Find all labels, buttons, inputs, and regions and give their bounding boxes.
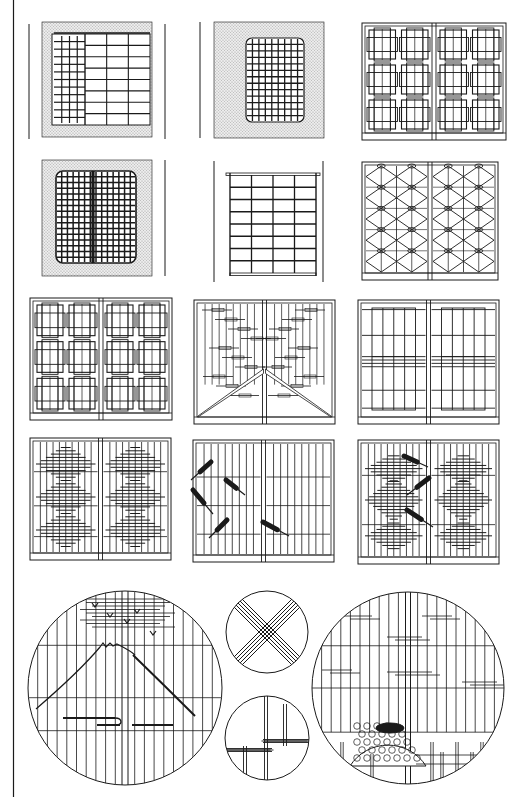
window-sliding-lattice-stippled-wall xyxy=(29,22,165,139)
shoji-interlocking-squares-tall xyxy=(30,298,172,420)
round-window-basket-fence xyxy=(312,592,505,784)
round-window-mount-fuji-lattice xyxy=(28,591,222,785)
shoji-standing-frame-grid xyxy=(214,161,323,282)
window-rounded-dense-grid-stippled xyxy=(42,160,165,276)
shoji-diamond-lattice xyxy=(362,162,498,280)
shoji-framed-vertical-bars xyxy=(358,300,499,424)
round-window-mount-fuji xyxy=(28,591,222,785)
window-rounded-grid-stippled-wall xyxy=(200,22,324,138)
round-window-bamboo-joints xyxy=(224,696,311,780)
shoji-interlocking-squares xyxy=(362,23,506,140)
round-window-crossed-bamboo xyxy=(226,583,308,681)
illustration-sheet xyxy=(0,0,531,799)
lattice-drawings xyxy=(0,0,531,799)
shoji-double-diamond-bars xyxy=(358,440,499,564)
shoji-stacked-diamond-bars xyxy=(30,438,171,560)
round-window-crossed-bamboo-lattice xyxy=(226,583,308,681)
round-window-bamboo-joints-rim xyxy=(225,696,309,780)
shoji-mountain-slope-sparse xyxy=(194,300,335,424)
shoji-fans-brushes xyxy=(191,440,433,562)
